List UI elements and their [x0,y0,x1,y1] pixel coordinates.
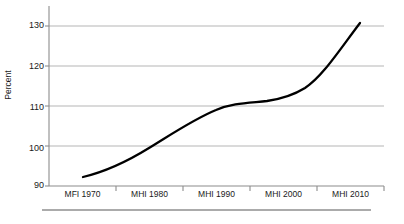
y-tick-label: 130 [18,21,44,30]
y-tick-label: 110 [18,103,44,112]
y-axis-tick-labels: 130 120 110 100 90 [16,0,44,224]
data-series-percent [83,23,360,177]
x-tick-label-1990: MHI 1990 [183,189,250,199]
x-tick-label-1970: MFI 1970 [49,189,116,199]
y-tick-label: 120 [18,62,44,71]
x-tick-label-2000: MHI 2000 [250,189,317,199]
x-tick-label-1980: MHI 1980 [116,189,183,199]
y-tick-label: 90 [18,181,44,190]
y-tick-label: 100 [18,144,44,153]
chart-figure: Percent 130 120 110 100 90 [0,0,404,224]
y-axis-ticks [45,26,49,186]
grid-lines [49,26,384,146]
x-tick-label-2010: MHI 2010 [317,189,384,199]
y-axis-title: Percent [3,55,13,115]
